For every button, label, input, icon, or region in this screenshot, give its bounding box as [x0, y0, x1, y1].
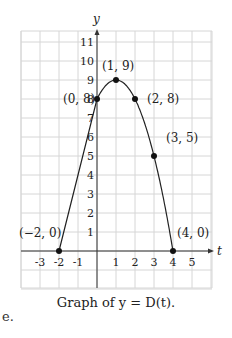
- svg-text:(2, 8): (2, 8): [147, 92, 179, 106]
- svg-text:(0, 8): (0, 8): [63, 92, 95, 106]
- svg-text:-1: -1: [73, 256, 84, 269]
- svg-text:4: 4: [170, 256, 177, 269]
- svg-text:11: 11: [80, 36, 94, 49]
- svg-text:9: 9: [87, 74, 94, 87]
- svg-text:5: 5: [87, 150, 94, 163]
- svg-text:-3: -3: [35, 256, 46, 269]
- svg-text:1: 1: [87, 226, 94, 239]
- svg-text:-2: -2: [54, 256, 65, 269]
- svg-text:y: y: [92, 12, 100, 26]
- svg-text:1: 1: [113, 256, 120, 269]
- svg-text:4: 4: [87, 169, 94, 182]
- item-letter: e.: [2, 309, 14, 324]
- svg-text:3: 3: [151, 256, 158, 269]
- svg-text:(1, 9): (1, 9): [102, 59, 134, 73]
- svg-text:(4, 0): (4, 0): [177, 226, 209, 240]
- svg-text:(−2, 0): (−2, 0): [19, 226, 61, 240]
- svg-text:t: t: [217, 244, 222, 258]
- svg-text:(3, 5): (3, 5): [166, 131, 198, 145]
- chart: ty -3-2-1123451234567891011 (−2, 0)(0, 8…: [0, 0, 232, 295]
- svg-text:2: 2: [132, 256, 139, 269]
- svg-text:10: 10: [80, 55, 94, 68]
- svg-text:3: 3: [87, 188, 94, 201]
- svg-text:5: 5: [189, 256, 196, 269]
- chart-caption: Graph of y = D(t).: [0, 295, 232, 310]
- svg-text:2: 2: [87, 207, 94, 220]
